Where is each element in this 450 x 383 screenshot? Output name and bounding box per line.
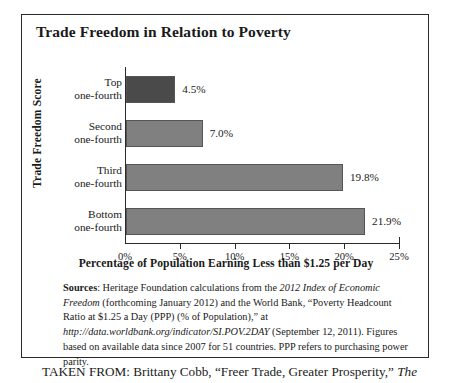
y-tick-line-2: one-fourth bbox=[74, 177, 122, 190]
sources-label: Sources bbox=[63, 282, 97, 293]
bar[interactable] bbox=[126, 208, 365, 235]
taken-from-caption: TAKEN FROM: Brittany Cobb, “Freer Trade,… bbox=[42, 364, 442, 380]
bar-value-label: 19.8% bbox=[350, 171, 379, 183]
page-title: Trade Freedom in Relation to Poverty bbox=[36, 23, 291, 41]
x-axis-tick bbox=[289, 244, 290, 249]
y-tick-line-1: Second bbox=[89, 120, 122, 133]
sources-text-2: (forthcoming January 2012) and the World… bbox=[63, 297, 392, 323]
taken-from-italic: The bbox=[397, 364, 417, 379]
sources-note: Sources: Heritage Foundation calculation… bbox=[63, 281, 415, 369]
bar-value-label: 4.5% bbox=[182, 83, 205, 95]
figure-page: Trade Freedom in Relation to Poverty Tra… bbox=[0, 0, 450, 383]
bar-series: 4.5%7.0%19.8%21.9% bbox=[126, 67, 401, 243]
y-tick-line-2: one-fourth bbox=[74, 89, 122, 102]
sources-text-1: : Heritage Foundation calculations from … bbox=[97, 282, 279, 293]
y-axis-tick-labels: Top one-fourth Second one-fourth Third o… bbox=[56, 67, 125, 243]
y-axis-tick-label: Second one-fourth bbox=[56, 111, 125, 155]
y-tick-line-1: Top bbox=[105, 76, 122, 89]
x-axis-tick bbox=[180, 244, 181, 249]
bar-value-label: 7.0% bbox=[210, 127, 233, 139]
y-tick-line-2: one-fourth bbox=[74, 133, 122, 146]
sources-url: http://data.worldbank.org/indicator/SI.P… bbox=[63, 326, 270, 337]
bar-row[interactable]: 21.9% bbox=[126, 199, 401, 243]
chart-axes: 0%5%10%15%20%25% 4.5%7.0%19.8%21.9% bbox=[125, 67, 403, 257]
x-axis-line bbox=[125, 243, 400, 244]
y-axis-tick-label: Third one-fourth bbox=[56, 155, 125, 199]
x-axis-tick bbox=[344, 244, 345, 249]
y-tick-line-2: one-fourth bbox=[74, 221, 122, 234]
bar-row[interactable]: 4.5% bbox=[126, 67, 401, 111]
figure-box: Trade Freedom in Relation to Poverty Tra… bbox=[21, 14, 429, 358]
chart-plot-area: Trade Freedom Score Top one-fourth Secon… bbox=[22, 55, 430, 270]
x-axis-tick bbox=[235, 244, 236, 249]
x-axis-title: Percentage of Population Earning Less th… bbox=[22, 257, 430, 270]
taken-from-text: TAKEN FROM: Brittany Cobb, “Freer Trade,… bbox=[42, 364, 397, 379]
bar-row[interactable]: 19.8% bbox=[126, 155, 401, 199]
y-axis-title: Trade Freedom Score bbox=[31, 58, 43, 208]
y-tick-line-1: Bottom bbox=[88, 208, 122, 221]
y-axis-tick-label: Bottom one-fourth bbox=[56, 199, 125, 243]
y-axis-tick-label: Top one-fourth bbox=[56, 67, 125, 111]
y-tick-line-1: Third bbox=[97, 164, 122, 177]
bar[interactable] bbox=[126, 164, 343, 191]
x-axis-tick bbox=[399, 244, 400, 249]
bar-row[interactable]: 7.0% bbox=[126, 111, 401, 155]
bar-value-label: 21.9% bbox=[372, 215, 401, 227]
bar[interactable] bbox=[126, 120, 203, 147]
bar[interactable] bbox=[126, 76, 175, 103]
